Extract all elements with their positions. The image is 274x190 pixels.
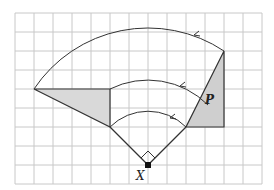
arc-middle — [110, 80, 208, 105]
rotation-diagram: X P — [0, 0, 274, 190]
arrow-middle-icon — [180, 82, 186, 87]
label-p: P — [204, 93, 215, 107]
center-point — [145, 162, 151, 168]
label-x: X — [135, 169, 145, 183]
